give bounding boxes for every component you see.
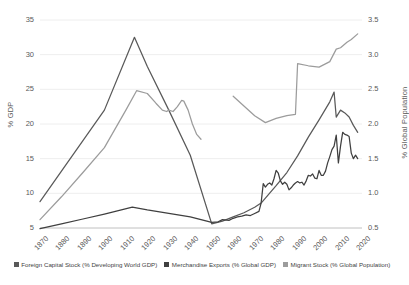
y-axis-left-tick-label: 20	[10, 119, 34, 128]
legend-swatch-icon	[164, 262, 169, 267]
y-axis-left-title: % GDP	[6, 85, 15, 145]
chart-legend: Foreign Capital Stock (% Developing Worl…	[0, 261, 404, 268]
legend-item[interactable]: Foreign Capital Stock (% Developing Worl…	[14, 261, 158, 268]
y-axis-right-tick-label: 1.5	[368, 154, 394, 163]
y-axis-left-tick-label: 10	[10, 188, 34, 197]
legend-swatch-icon	[283, 262, 288, 267]
series-line	[233, 34, 358, 123]
y-axis-left-tick-label: 5	[10, 223, 34, 232]
y-axis-left-tick-label: 30	[10, 50, 34, 59]
y-axis-right-title: % Global Population	[400, 83, 409, 163]
y-axis-left-tick-label: 25	[10, 84, 34, 93]
legend-swatch-icon	[14, 262, 19, 267]
legend-label: Merchandise Exports (% Global GDP)	[172, 261, 276, 268]
y-axis-right-tick-label: 1.0	[368, 188, 394, 197]
legend-item[interactable]: Migrant Stock (% Global Population)	[283, 261, 390, 268]
series-line	[40, 132, 358, 228]
gridlines-group	[40, 20, 362, 228]
series-line	[40, 91, 201, 220]
y-axis-right-tick-label: 3.0	[368, 50, 394, 59]
legend-label: Migrant Stock (% Global Population)	[291, 261, 391, 268]
y-axis-right-tick-label: 3.5	[368, 15, 394, 24]
y-axis-left-tick-label: 15	[10, 154, 34, 163]
y-axis-left-tick-label: 35	[10, 15, 34, 24]
y-axis-right-tick-label: 0.5	[368, 223, 394, 232]
series-line	[40, 37, 358, 224]
y-axis-right-tick-label: 2.5	[368, 84, 394, 93]
series-lines-group	[40, 34, 358, 229]
legend-label: Foreign Capital Stock (% Developing Worl…	[21, 261, 157, 268]
legend-item[interactable]: Merchandise Exports (% Global GDP)	[164, 261, 276, 268]
y-axis-right-tick-label: 2.0	[368, 119, 394, 128]
